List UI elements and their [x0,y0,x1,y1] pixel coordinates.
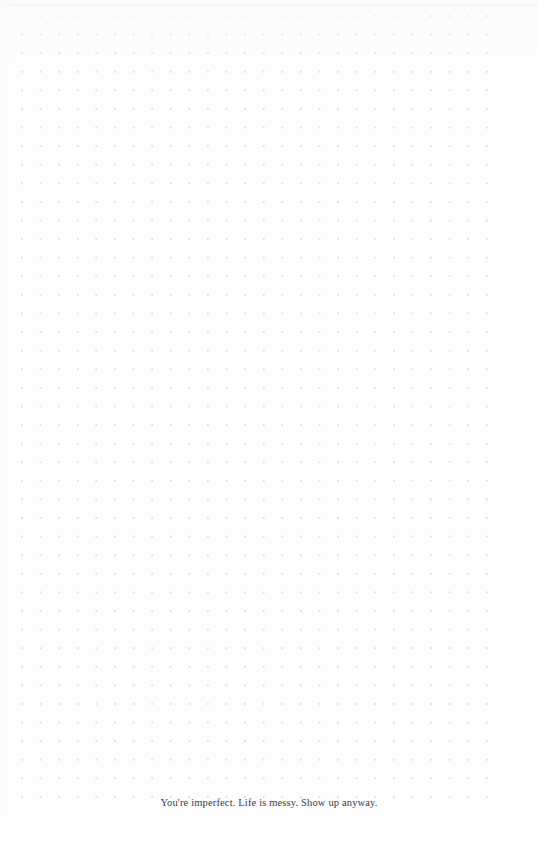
top-edge-rule [0,4,538,5]
top-edge-rule-secondary [0,6,538,7]
quote-text: You're imperfect. Life is messy. Show up… [0,796,538,810]
dot-grid-background [21,15,489,799]
dot-grid-page: You're imperfect. Life is messy. Show up… [0,0,538,842]
